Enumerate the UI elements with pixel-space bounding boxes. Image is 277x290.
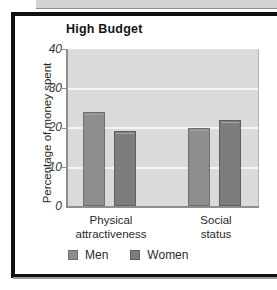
chart-title: High Budget	[66, 22, 143, 36]
bar-highlight	[190, 130, 208, 131]
x-label-physical-attractiveness: Physical attractiveness	[70, 213, 152, 241]
x-label-social-status: Social status	[182, 213, 250, 241]
legend-entry-women: Women	[130, 248, 188, 262]
bar-men-physical-attractiveness	[83, 112, 105, 206]
chart-legend: Men Women	[68, 248, 188, 262]
legend-swatch-men-icon	[68, 250, 78, 260]
gridline-30	[68, 88, 258, 90]
page-top-band	[36, 0, 277, 9]
x-label-line-1: Social	[182, 213, 250, 227]
y-tick-mark-20	[62, 128, 66, 129]
x-axis-line	[66, 206, 259, 208]
y-axis-title: Percentage of money spent	[41, 53, 53, 213]
bar-women-physical-attractiveness	[114, 131, 136, 206]
x-label-line-2: attractiveness	[70, 227, 152, 241]
legend-swatch-women-icon	[130, 250, 140, 260]
bar-highlight	[85, 114, 103, 115]
y-axis-line	[66, 49, 68, 208]
y-tick-mark-40	[62, 49, 66, 50]
bar-men-social-status	[188, 128, 210, 206]
page-top-band-cap	[0, 0, 36, 10]
legend-label-men: Men	[85, 248, 108, 262]
y-tick-mark-30	[62, 88, 66, 89]
bar-highlight	[221, 122, 239, 123]
figure-screenshot: High Budget 40 30 20 10 0 Percentage of …	[0, 0, 277, 290]
x-label-line-2: status	[182, 227, 250, 241]
bar-highlight	[116, 133, 134, 134]
legend-label-women: Women	[147, 248, 188, 262]
bar-women-social-status	[219, 120, 241, 206]
x-label-line-1: Physical	[70, 213, 152, 227]
y-tick-mark-10	[62, 167, 66, 168]
y-tick-label-0: 0	[55, 199, 62, 213]
legend-entry-men: Men	[68, 248, 108, 262]
